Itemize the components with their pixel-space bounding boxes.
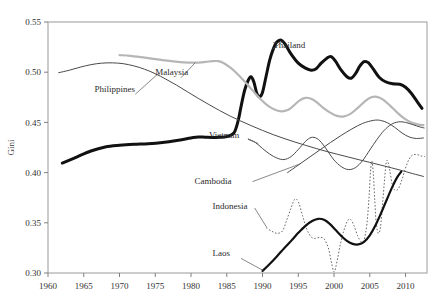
y-tick-label: 0.50	[25, 67, 41, 77]
series-label-thailand: Thailand	[273, 40, 305, 50]
x-tick-label: 2010	[397, 281, 416, 291]
y-tick-label: 0.40	[25, 168, 41, 178]
cambodia-leader	[253, 164, 300, 182]
x-tick-label: 1970	[111, 281, 130, 291]
gini-line-chart: 0.300.350.400.450.500.551960196519701975…	[0, 0, 448, 306]
chart-svg: 0.300.350.400.450.500.551960196519701975…	[0, 0, 448, 306]
y-tick-label: 0.55	[25, 17, 41, 27]
series-label-laos: Laos	[212, 248, 230, 258]
series-label-vietnam: Vietnam	[209, 130, 239, 140]
x-tick-label: 2000	[325, 281, 344, 291]
x-tick-label: 1995	[289, 281, 308, 291]
x-tick-label: 1985	[218, 281, 237, 291]
indonesia-leader	[255, 208, 267, 228]
series-line-thailand	[62, 40, 422, 163]
x-tick-label: 1960	[39, 281, 58, 291]
series-group	[59, 40, 425, 272]
series-line-malaysia	[120, 55, 424, 125]
series-labels-group: ThailandMalaysiaPhilippinesVietnamCambod…	[94, 40, 305, 259]
series-label-indonesia: Indonesia	[212, 201, 247, 211]
x-tick-label: 1980	[182, 281, 201, 291]
series-line-philippines	[59, 63, 424, 177]
x-tick-label: 1990	[254, 281, 273, 291]
series-label-cambodia: Cambodia	[195, 176, 232, 186]
vietnam-leader	[248, 139, 258, 143]
series-label-malaysia: Malaysia	[155, 67, 188, 77]
x-tick-label: 1965	[75, 281, 94, 291]
axis-labels-group: Gini	[6, 139, 16, 156]
y-tick-label: 0.35	[25, 218, 41, 228]
series-line-laos	[263, 172, 402, 271]
y-axis-title: Gini	[6, 139, 16, 156]
series-label-philippines: Philippines	[94, 84, 135, 94]
x-tick-label: 1975	[146, 281, 165, 291]
laos-leader	[241, 258, 263, 270]
philippines-leader	[135, 74, 158, 95]
y-tick-label: 0.45	[25, 118, 41, 128]
series-line-vietnam	[248, 122, 424, 170]
x-tick-label: 2005	[361, 281, 380, 291]
y-tick-label: 0.30	[25, 268, 41, 278]
